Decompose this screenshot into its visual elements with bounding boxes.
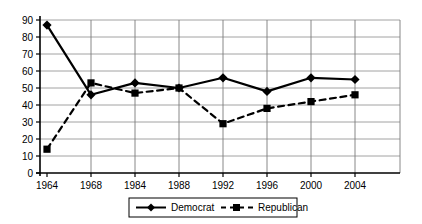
- y-tick-label: 10: [22, 151, 34, 162]
- data-point-marker-republican: [131, 90, 138, 97]
- x-tick-label: 1964: [36, 180, 59, 191]
- data-point-marker-republican: [87, 79, 94, 86]
- y-tick-label: 0: [27, 168, 33, 179]
- chart-container: 90 80 70 60 50 40 30 20 10 0: [0, 0, 422, 224]
- y-tick-label: 70: [22, 49, 34, 60]
- y-tick-label: 20: [22, 134, 34, 145]
- data-point-marker-republican: [351, 91, 358, 98]
- legend-democrat-label: Democrat: [171, 202, 215, 213]
- x-tick-label: 1984: [124, 180, 147, 191]
- x-tick-label: 2004: [344, 180, 367, 191]
- y-tick-label: 80: [22, 32, 34, 43]
- data-point-marker-republican: [219, 120, 226, 127]
- y-tick-label: 50: [22, 83, 34, 94]
- data-point-marker-republican: [263, 105, 270, 112]
- x-tick-label: 1968: [80, 180, 103, 191]
- y-tick-label: 90: [22, 15, 34, 26]
- y-tick-label: 40: [22, 100, 34, 111]
- y-tick-label: 60: [22, 66, 34, 77]
- data-point-marker-republican: [307, 98, 314, 105]
- x-tick-label: 1992: [212, 180, 235, 191]
- legend-republican-label: Republican: [258, 202, 308, 213]
- legend-republican-marker-icon: [233, 204, 240, 211]
- x-tick-label: 1996: [256, 180, 279, 191]
- data-point-marker-republican: [43, 146, 50, 153]
- x-tick-label: 1988: [168, 180, 191, 191]
- y-tick-label: 30: [22, 117, 34, 128]
- line-chart: 90 80 70 60 50 40 30 20 10 0: [0, 0, 422, 224]
- x-tick-label: 2000: [300, 180, 323, 191]
- chart-legend: Democrat Republican: [129, 198, 308, 217]
